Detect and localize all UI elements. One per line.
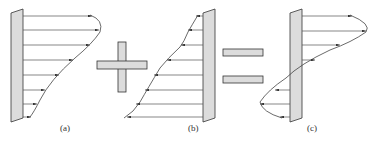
figure-caption <box>150 134 240 142</box>
plus-operator <box>97 42 147 92</box>
label-c: (c) <box>307 123 317 133</box>
profile-c <box>260 15 367 118</box>
label-b: (b) <box>188 123 199 133</box>
wall-a <box>11 9 23 122</box>
panel-a <box>11 9 101 122</box>
wall-c <box>290 9 302 122</box>
equals-operator <box>223 49 263 83</box>
label-a: (a) <box>60 123 70 133</box>
panel-c <box>260 9 367 122</box>
arrows-a <box>23 16 99 117</box>
wall-b <box>203 9 215 122</box>
arrows-c <box>260 16 366 117</box>
